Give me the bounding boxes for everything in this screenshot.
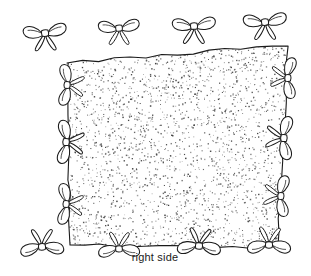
- figure-svg: right side: [0, 0, 311, 276]
- caption-label: right side: [132, 251, 179, 263]
- illustration-root: right side: [0, 0, 311, 276]
- stippled-fabric-panel: [66, 45, 289, 248]
